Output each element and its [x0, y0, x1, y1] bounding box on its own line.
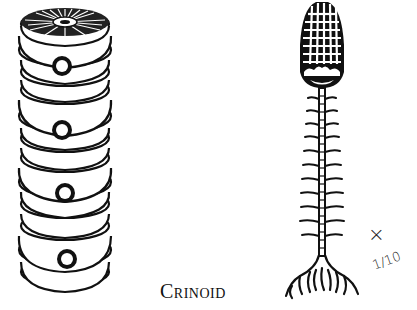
figure-caption: Crinoid — [160, 280, 226, 303]
whole-crinoid-illustration — [270, 0, 380, 310]
scale-fraction: 1/10 — [370, 248, 403, 272]
radial-face-icon — [21, 8, 109, 36]
scale-label: ×1/10 — [368, 222, 417, 270]
scale-multiplier: × — [368, 222, 385, 246]
crinoid-stem-column-illustration — [10, 0, 120, 300]
